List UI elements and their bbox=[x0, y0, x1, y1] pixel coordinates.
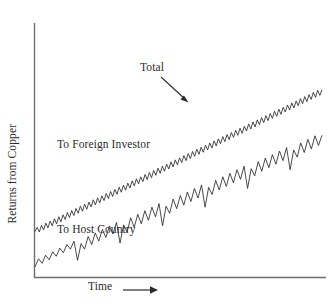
x-axis-label: Time bbox=[88, 281, 112, 293]
chart-figure: Returns from Copper Time Total To Foreig… bbox=[0, 0, 334, 307]
series-line-host-country bbox=[35, 135, 322, 267]
annotation-total: Total bbox=[140, 62, 164, 74]
annotation-foreign-investor: To Foreign Investor bbox=[57, 139, 150, 151]
total-pointer-arrow bbox=[161, 77, 189, 103]
series-line-total bbox=[35, 90, 322, 232]
time-arrow-head bbox=[150, 286, 158, 294]
time-direction-arrow bbox=[123, 286, 158, 294]
annotation-host-country: To Host Country bbox=[57, 224, 136, 236]
y-axis-label: Returns from Copper bbox=[7, 99, 19, 249]
chart-canvas bbox=[0, 0, 334, 307]
total-pointer-shaft bbox=[161, 77, 186, 100]
